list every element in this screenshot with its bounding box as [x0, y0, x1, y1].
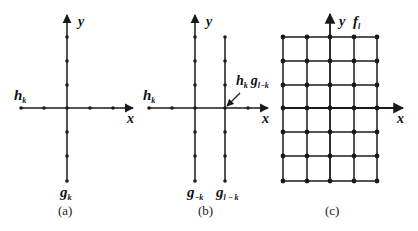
panel-b-y-label: y [204, 14, 213, 29]
panel-c-caption: (c) [325, 203, 339, 218]
panel-a-g-label: gk [59, 184, 72, 202]
panel-c-x-label: x [396, 111, 404, 126]
panel-b-caption: (b) [198, 203, 213, 218]
panel-b-annotation-arrow [227, 93, 240, 106]
panel-a: y x hk gk (a) [14, 14, 134, 218]
panel-c-f-label: fl [353, 13, 361, 31]
panel-b-g-right-label: gl − k [215, 184, 239, 202]
panel-a-caption: (a) [58, 203, 72, 218]
panel-a-h-label: hk [14, 87, 26, 105]
diagram-canvas: y x hk gk (a) [0, 0, 418, 231]
panel-b-x-label: x [261, 111, 269, 126]
panel-b-annotation-label: hkgl−k [236, 73, 269, 90]
panel-b-g-left-label: g−k [186, 184, 203, 202]
panel-c-y-label: y [337, 14, 346, 29]
panel-c [283, 14, 403, 181]
panel-a-y-label: y [76, 14, 85, 29]
panel-a-x-label: x [126, 111, 134, 126]
panel-b: y x hk hkgl−k g−k gl − k (b) [143, 14, 269, 218]
panel-b-h-label: hk [143, 87, 155, 105]
